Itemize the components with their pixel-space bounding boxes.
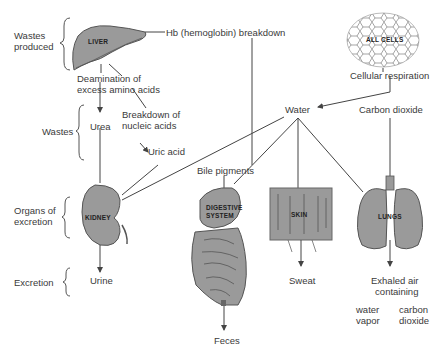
urea-label: Urea bbox=[90, 121, 111, 132]
bracket-organs bbox=[62, 197, 70, 238]
cellular-respiration-label: Cellular respiration bbox=[350, 70, 429, 81]
urine-label: Urine bbox=[90, 275, 113, 286]
node-label-line: Deamination of bbox=[77, 73, 160, 84]
row-label-line: Organs of bbox=[14, 205, 56, 216]
node-label-line: Breakdown of bbox=[122, 109, 180, 120]
row-label-wastes: Wastes bbox=[42, 126, 73, 137]
row-label-line: produced bbox=[14, 41, 54, 52]
node-label-line: containing bbox=[371, 286, 419, 297]
feces-label: Feces bbox=[214, 335, 240, 346]
bracket-wastes bbox=[76, 105, 84, 160]
all-cells-label: ALL CELLS bbox=[366, 36, 403, 44]
row-label-line: excretion bbox=[14, 216, 56, 227]
row-label-line: Wastes bbox=[14, 30, 54, 41]
organ-label-line: SYSTEM bbox=[206, 212, 242, 220]
row-label-organs-of-excretion: Organs of excretion bbox=[14, 205, 56, 227]
exhaled-air-label: Exhaled air containing bbox=[371, 275, 419, 297]
liver-organ bbox=[73, 26, 146, 70]
lungs-label: LUNGS bbox=[378, 213, 402, 221]
node-label-line: Exhaled air bbox=[371, 275, 419, 286]
bracket-wastes-produced bbox=[60, 18, 70, 70]
carbon-dioxide-exhaled-label: carbon dioxide bbox=[399, 304, 429, 326]
node-label-line: nucleic acids bbox=[122, 120, 180, 131]
row-label-excretion: Excretion bbox=[14, 277, 54, 288]
organ-label-line: DIGESTIVE bbox=[206, 204, 242, 212]
node-label-line: carbon bbox=[399, 304, 429, 315]
digestive-system-label: DIGESTIVE SYSTEM bbox=[206, 204, 242, 220]
sweat-label: Sweat bbox=[289, 275, 315, 286]
kidney-label: KIDNEY bbox=[85, 214, 111, 222]
breakdown-nucleic-acids-label: Breakdown of nucleic acids bbox=[122, 109, 180, 131]
hb-breakdown-label: Hb (hemoglobin) breakdown bbox=[166, 27, 285, 38]
deamination-label: Deamination of excess amino acids bbox=[77, 73, 160, 95]
node-label-line: vapor bbox=[356, 315, 380, 326]
node-label-line: excess amino acids bbox=[77, 84, 160, 95]
water-label: Water bbox=[285, 104, 310, 115]
skin-label: SKIN bbox=[291, 211, 307, 219]
node-label-line: dioxide bbox=[399, 315, 429, 326]
carbon-dioxide-label: Carbon dioxide bbox=[359, 104, 423, 115]
liver-label: LIVER bbox=[88, 38, 108, 46]
bile-pigments-label: Bile pigments bbox=[197, 165, 254, 176]
node-label-line: water bbox=[356, 304, 380, 315]
row-label-wastes-produced: Wastes produced bbox=[14, 30, 54, 52]
bracket-excretion bbox=[63, 268, 70, 296]
excretion-diagram: Wastes produced Wastes Organs of excreti… bbox=[0, 0, 439, 350]
water-vapor-label: water vapor bbox=[356, 304, 380, 326]
uric-acid-label: Uric acid bbox=[148, 146, 185, 157]
